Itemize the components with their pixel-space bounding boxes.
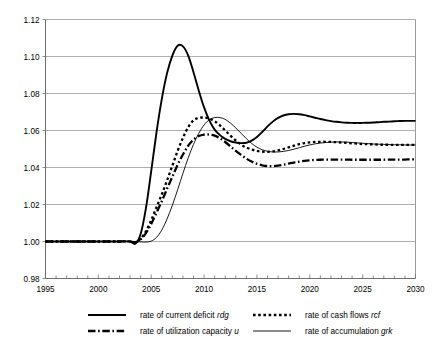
x-tick-label: 2005 [142,285,161,294]
chart-figure: 1.121.101.081.061.041.021.000.98 1995200… [0,0,434,349]
chart-background [0,0,434,349]
x-tick-label: 2025 [354,285,373,294]
legend-symbol-u: u [234,327,239,336]
y-tick-label: 1.12 [24,16,40,25]
y-tick-label: 1.06 [24,127,40,136]
legend-symbol-rcf: rcf [371,311,381,320]
x-tick-label: 2020 [301,285,320,294]
x-tick-label: 2030 [406,285,425,294]
x-tick-label: 2010 [195,285,214,294]
y-tick-label: 1.08 [24,90,40,99]
y-tick-label: 1.04 [24,164,40,173]
legend-label-u: rate of utilization capacity u [140,327,239,336]
legend-symbol-grk: grk [381,327,393,336]
chart-svg: 1.121.101.081.061.041.021.000.98 1995200… [0,0,434,349]
legend-label-grk: rate of accumulation grk [305,327,393,336]
y-tick-label: 1.02 [24,201,40,210]
y-tick-label: 1.00 [24,238,40,247]
x-tick-label: 2015 [248,285,267,294]
y-tick-label: 1.10 [24,53,40,62]
legend-label-rcf: rate of cash flows rcf [305,311,381,320]
x-tick-label: 1995 [36,285,55,294]
x-tick-label: 2000 [89,285,108,294]
legend-label-rdg: rate of current deficit rdg [140,311,229,320]
legend-symbol-rdg: rdg [217,311,229,320]
y-tick-label: 0.98 [24,275,40,284]
